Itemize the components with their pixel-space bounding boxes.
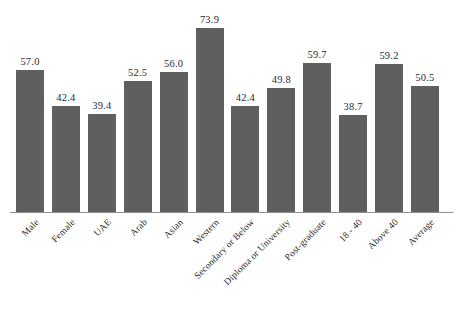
bar-group: 59.2 xyxy=(375,0,403,213)
category-label: Arab xyxy=(128,217,149,238)
bar-value-label: 73.9 xyxy=(200,14,219,25)
bar xyxy=(339,115,367,212)
bar-group: 38.7 xyxy=(339,0,367,213)
bar xyxy=(303,63,331,212)
bar-value-label: 52.5 xyxy=(128,67,147,78)
bar-value-label: 57.0 xyxy=(20,56,39,67)
bar-group: 59.7 xyxy=(303,0,331,213)
bar-value-label: 42.4 xyxy=(236,92,255,103)
bar xyxy=(16,70,44,212)
category-label: Secondary or Below xyxy=(193,217,257,281)
bar xyxy=(160,72,188,212)
bar xyxy=(231,106,259,212)
category-label: Diploma or University xyxy=(222,217,292,287)
bar xyxy=(375,64,403,212)
category-label: Average xyxy=(406,217,436,247)
category-label: 18 - 40 xyxy=(337,217,364,244)
category-label: Female xyxy=(49,217,76,244)
category-axis-labels: MaleFemaleUAEArabAsianWesternSecondary o… xyxy=(0,213,459,309)
bar-group: 73.9 xyxy=(196,0,224,213)
bar-value-label: 59.7 xyxy=(308,49,327,60)
bar xyxy=(196,28,224,212)
bar-value-label: 42.4 xyxy=(56,92,75,103)
bar-value-label: 39.4 xyxy=(92,100,111,111)
category-label: Above 40 xyxy=(366,217,400,251)
bar-group: 57.0 xyxy=(16,0,44,213)
category-label: Male xyxy=(20,217,41,238)
bar xyxy=(267,88,295,212)
bar-group: 42.4 xyxy=(52,0,80,213)
bar xyxy=(411,86,439,212)
bar-value-label: 59.2 xyxy=(379,50,398,61)
bar-group: 49.8 xyxy=(267,0,295,213)
bar xyxy=(52,106,80,212)
bar-group: 39.4 xyxy=(88,0,116,213)
bar-value-label: 49.8 xyxy=(272,74,291,85)
bar-group: 50.5 xyxy=(411,0,439,213)
bar-value-label: 50.5 xyxy=(415,72,434,83)
bar-group: 56.0 xyxy=(160,0,188,213)
bar xyxy=(88,114,116,212)
bar-value-label: 38.7 xyxy=(344,101,363,112)
plot-area: 57.042.439.452.556.073.942.449.859.738.7… xyxy=(0,0,459,213)
bar-value-label: 56.0 xyxy=(164,58,183,69)
bar-chart: 57.042.439.452.556.073.942.449.859.738.7… xyxy=(0,0,459,309)
category-label: UAE xyxy=(92,217,113,238)
bar xyxy=(124,81,152,212)
bar-group: 42.4 xyxy=(231,0,259,213)
bar-group: 52.5 xyxy=(124,0,152,213)
category-label: Asian xyxy=(161,217,184,240)
category-label: Western xyxy=(191,217,221,247)
